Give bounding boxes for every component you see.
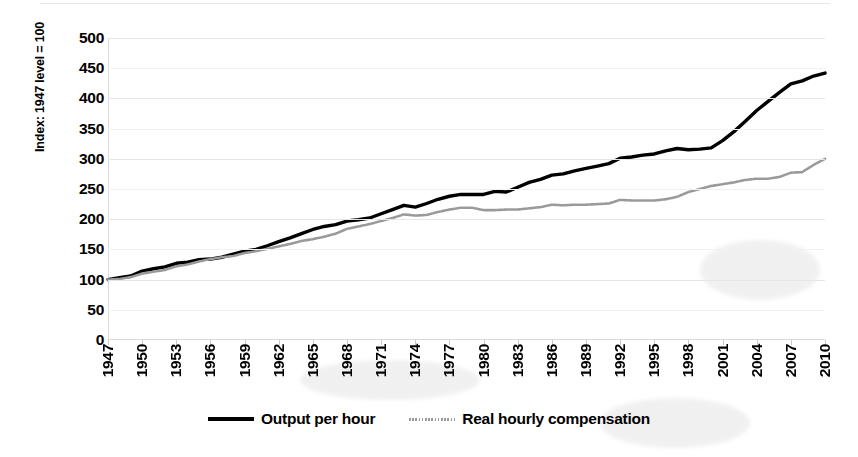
plot-area bbox=[108, 38, 825, 340]
x-axis-tick-label: 1968 bbox=[339, 344, 355, 377]
x-axis-tick-label: 1977 bbox=[441, 344, 457, 377]
x-axis-tick-labels: 1947195019531956195919621965196819711974… bbox=[108, 344, 825, 402]
legend-line-solid-icon bbox=[208, 417, 254, 421]
gridline bbox=[108, 68, 825, 69]
gridline bbox=[108, 219, 825, 220]
gridline bbox=[108, 189, 825, 190]
y-axis-title: Index: 1947 level = 100 bbox=[33, 0, 47, 217]
x-axis-tick-label: 1965 bbox=[305, 344, 321, 377]
x-axis-tick-label: 1971 bbox=[373, 344, 389, 377]
x-axis-tick-label: 1986 bbox=[544, 344, 560, 377]
gridline bbox=[108, 280, 825, 281]
x-axis-tick-label: 1992 bbox=[612, 344, 628, 377]
legend-line-dotted-icon bbox=[409, 417, 455, 421]
chart-figure: Index: 1947 level = 100 0501001502002503… bbox=[0, 0, 858, 457]
y-axis-tick-label: 200 bbox=[48, 211, 104, 227]
x-axis-tick-label: 1956 bbox=[202, 344, 218, 377]
x-axis-tick-label: 1974 bbox=[407, 344, 423, 377]
y-axis-tick-labels: 050100150200250300350400450500 bbox=[48, 38, 104, 340]
gridline bbox=[108, 129, 825, 130]
y-axis-tick-label: 450 bbox=[48, 60, 104, 76]
gridline bbox=[108, 159, 825, 160]
top-rule bbox=[40, 3, 830, 4]
gridline bbox=[108, 98, 825, 99]
x-axis-tick-label: 2007 bbox=[783, 344, 799, 377]
y-axis-tick-label: 350 bbox=[48, 121, 104, 137]
gridline bbox=[108, 310, 825, 311]
x-axis-tick-label: 2004 bbox=[749, 344, 765, 377]
x-axis-tick-label: 1953 bbox=[168, 344, 184, 377]
x-axis-tick-label: 1989 bbox=[578, 344, 594, 377]
x-axis-tick-label: 1998 bbox=[680, 344, 696, 377]
legend-item-real-hourly-compensation[interactable]: Real hourly compensation bbox=[409, 410, 650, 428]
x-axis-tick-label: 1962 bbox=[271, 344, 287, 377]
gridline bbox=[108, 249, 825, 250]
x-axis-tick-label: 1980 bbox=[476, 344, 492, 377]
x-axis-tick-label: 1947 bbox=[100, 344, 116, 377]
x-axis-tick-label: 1995 bbox=[646, 344, 662, 377]
y-axis-tick-label: 400 bbox=[48, 91, 104, 107]
x-axis-tick-label: 1950 bbox=[134, 344, 150, 377]
x-axis-tick-label: 1983 bbox=[510, 344, 526, 377]
legend-label: Real hourly compensation bbox=[462, 410, 650, 428]
chart-legend: Output per hour Real hourly compensation bbox=[0, 410, 858, 428]
y-axis-tick-label: 150 bbox=[48, 242, 104, 258]
legend-label: Output per hour bbox=[261, 410, 375, 428]
x-axis-tick-label: 2001 bbox=[715, 344, 731, 377]
legend-item-output-per-hour[interactable]: Output per hour bbox=[208, 410, 375, 428]
y-axis-tick-label: 300 bbox=[48, 151, 104, 167]
y-axis-tick-label: 250 bbox=[48, 181, 104, 197]
y-axis-tick-label: 100 bbox=[48, 272, 104, 288]
x-axis-tick-label: 2010 bbox=[817, 344, 833, 377]
gridline bbox=[108, 38, 825, 39]
y-axis-tick-label: 500 bbox=[48, 30, 104, 46]
x-axis-tick-label: 1959 bbox=[237, 344, 253, 377]
y-axis-tick-label: 0 bbox=[48, 332, 104, 348]
y-axis-tick-label: 50 bbox=[48, 302, 104, 318]
